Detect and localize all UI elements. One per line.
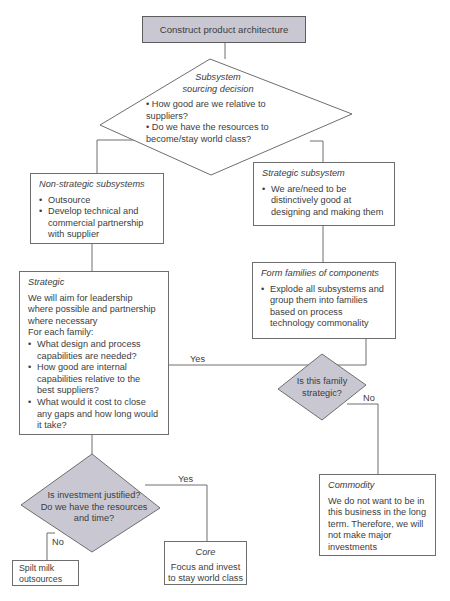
investment-no-label: No [52,537,64,547]
strategic-title: Strategic [28,277,160,289]
investment-line-3: and time? [30,513,158,525]
family-no-label: No [363,393,375,403]
form-families-node: Form families of components Explode all … [252,262,396,339]
spilt-milk-text: Spilt milk outsources [19,563,72,585]
commodity-text: We do not want to be in this business in… [328,496,427,554]
sourcing-decision-text: Subsystem sourcing decision • How good a… [138,72,298,146]
investment-decision-text: Is investment justified? Do we have the … [30,490,158,525]
commodity-title: Commodity [328,480,427,492]
strategic-subsystem-bullet-1: We are/need to be distinctively good at … [262,184,386,219]
start-label: Construct product architecture [160,24,289,35]
sourcing-title-2: sourcing decision [138,84,298,96]
start-node: Construct product architecture [142,16,306,43]
investment-yes-label: Yes [178,474,193,484]
family-decision-text: Is this family strategic? [284,376,360,399]
core-title: Core [167,547,244,559]
strategic-bullet-1: What design and process capabilities are… [28,339,160,362]
strategic-node: Strategic We will aim for leadership whe… [19,271,169,435]
strategic-intro: We will aim for leadership where possibl… [28,293,160,328]
investment-line-2: Do we have the resources [30,502,158,514]
non-strategic-title: Non-strategic subsystems [39,179,155,191]
strategic-bullet-3: What would it cost to close any gaps and… [28,397,160,432]
strategic-bullet-2: How good are internal capabilities relat… [28,362,160,397]
strategic-subsystem-title: Strategic subsystem [262,168,386,180]
sourcing-bullet-2: • Do we have the resources to become/sta… [146,122,298,145]
strategic-for-each: For each family: [28,327,160,339]
spilt-milk-node: Spilt milk outsources [12,560,79,586]
core-text: Focus and invest to stay world class [167,562,244,585]
strategic-subsystem-node: Strategic subsystem We are/need to be di… [253,162,395,226]
family-decision-line-1: Is this family [284,376,360,388]
investment-line-1: Is investment justified? [30,490,158,502]
form-families-bullet-1: Explode all subsystems and group them in… [261,284,387,330]
sourcing-bullet-1: • How good are we relative to suppliers? [146,99,298,122]
non-strategic-bullet-1: Outsource [39,195,155,207]
form-families-title: Form families of components [261,268,387,280]
core-node: Core Focus and invest to stay world clas… [164,541,247,585]
family-yes-label: Yes [190,354,205,364]
sourcing-title-1: Subsystem [138,72,298,84]
commodity-node: Commodity We do not want to be in this b… [319,474,436,556]
non-strategic-node: Non-strategic subsystems Outsource Devel… [30,173,164,244]
non-strategic-bullet-2: Develop technical and commercial partner… [39,206,155,241]
family-decision-line-2: strategic? [284,388,360,400]
